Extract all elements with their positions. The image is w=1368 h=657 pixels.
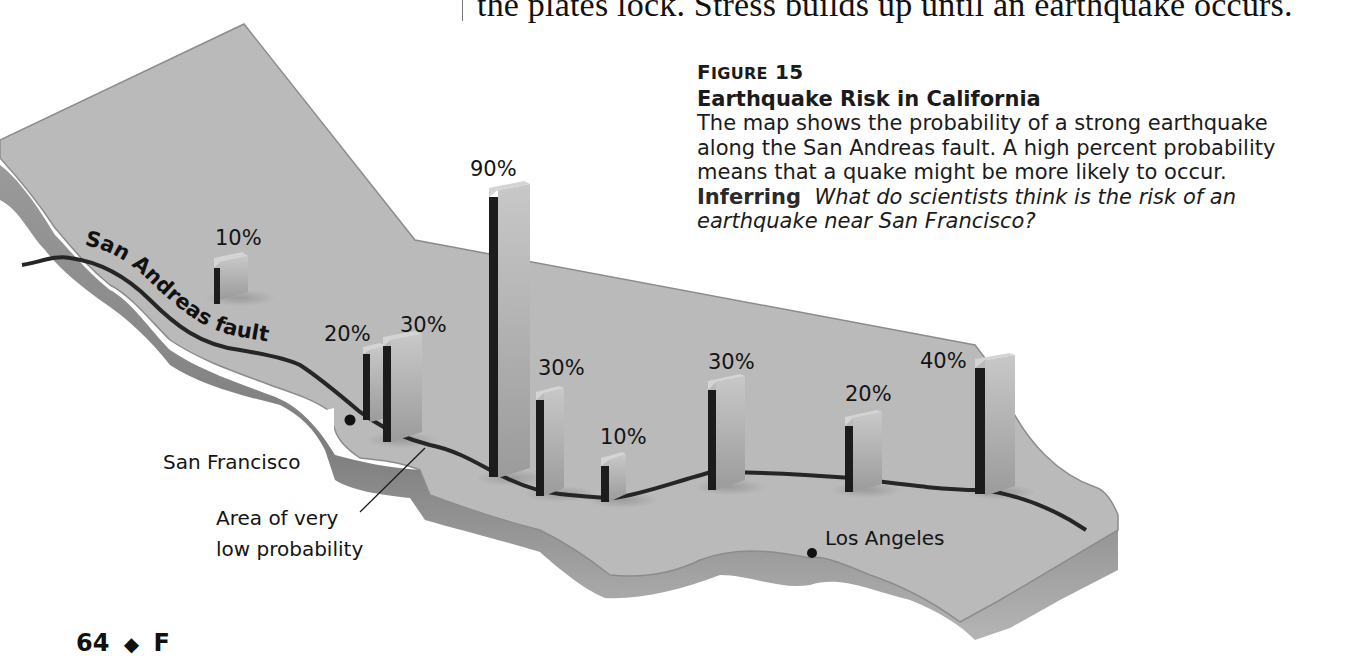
bay-gap (326, 408, 334, 440)
san-francisco-dot-icon (345, 415, 356, 426)
caption-line: along the San Andreas fault. A high perc… (697, 136, 1368, 161)
question-line: What do scientists think is the risk of … (814, 185, 1236, 209)
question-line: earthquake near San Francisco? (697, 209, 1036, 233)
bar-label: 40% (920, 349, 967, 373)
bar-label: 90% (470, 157, 517, 181)
bar-label: 10% (600, 425, 647, 449)
los-angeles-dot-icon (807, 548, 817, 558)
page-number: 64 (76, 629, 109, 657)
bar-label: 10% (215, 226, 262, 250)
bar-30-central (536, 386, 564, 496)
bar-30-sf (383, 331, 422, 442)
bar-label: 30% (708, 350, 755, 374)
inferring-question: Inferring What do scientists think is th… (697, 185, 1368, 210)
caption-line: The map shows the probability of a stron… (697, 111, 1368, 136)
annotation-label: Area of very low probability (216, 503, 363, 565)
caption-body: The map shows the probability of a stron… (697, 111, 1368, 185)
figure-caption: FIGURE 15 Earthquake Risk in California … (697, 60, 1368, 234)
figure-label: FIGURE 15 (697, 60, 1368, 87)
bar-20-sf (363, 343, 386, 422)
los-angeles-label: Los Angeles (825, 526, 944, 550)
bar-label: 20% (845, 382, 892, 406)
bar-10-central (601, 452, 626, 502)
bar-30-south (708, 374, 745, 490)
annotation-line-2: low probability (216, 534, 363, 565)
caption-line: means that a quake might be more likely … (697, 160, 1368, 185)
bar-label: 30% (400, 313, 447, 337)
figure-title: Earthquake Risk in California (697, 87, 1368, 112)
san-francisco-label: San Francisco (163, 450, 300, 474)
diamond-icon: ◆ (124, 632, 139, 656)
bar-90 (489, 181, 530, 478)
section-letter: F (154, 629, 170, 657)
bar-label: 30% (538, 356, 585, 380)
inferring-label: Inferring (697, 185, 801, 209)
annotation-line-1: Area of very (216, 503, 363, 534)
bar-40-southeast (975, 353, 1015, 496)
bar-label: 20% (324, 322, 371, 346)
page-footer: 64 ◆ F (76, 629, 170, 657)
